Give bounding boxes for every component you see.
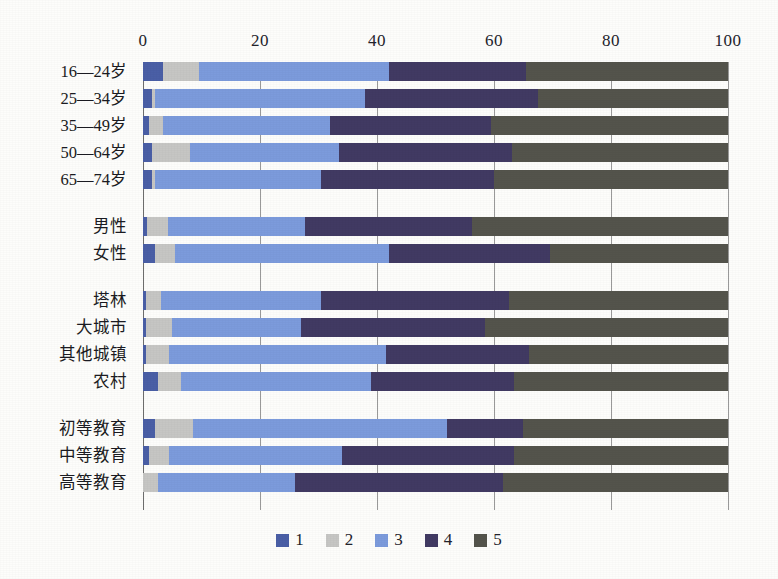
- bar-segment-series-2: [163, 62, 198, 81]
- bar-row: [143, 345, 728, 364]
- bar-segment-series-3: [158, 473, 295, 492]
- bar-segment-series-1: [143, 244, 155, 263]
- category-label: 25—34岁: [0, 89, 133, 108]
- bar-segment-series-5: [514, 372, 728, 391]
- bar-row: [143, 143, 728, 162]
- bar-row: [143, 89, 728, 108]
- category-label: 中等教育: [0, 446, 133, 465]
- legend-item-2[interactable]: 2: [326, 530, 354, 550]
- bar-segment-series-4: [447, 419, 523, 438]
- bar-segment-series-2: [146, 318, 172, 337]
- legend-label: 4: [444, 530, 453, 550]
- bar-segment-series-2: [155, 419, 193, 438]
- category-label: 其他城镇: [0, 345, 133, 364]
- bar-segment-series-5: [472, 217, 728, 236]
- x-axis: 020406080100: [0, 28, 778, 54]
- legend: 12345: [0, 530, 778, 550]
- bar-segment-series-3: [163, 116, 330, 135]
- bar-row: [143, 170, 728, 189]
- bar-segment-series-5: [512, 143, 728, 162]
- category-label: 塔林: [0, 291, 133, 310]
- bar-segment-series-4: [305, 217, 472, 236]
- bar-row: [143, 62, 728, 81]
- bar-row: [143, 116, 728, 135]
- x-axis-tick-20: 20: [240, 28, 280, 54]
- stacked-bar-chart: 020406080100 16—24岁25—34岁35—49岁50—64岁65—…: [0, 0, 778, 579]
- gridline-100: [728, 62, 729, 510]
- bar-row: [143, 419, 728, 438]
- bar-segment-series-2: [158, 372, 181, 391]
- bar-segment-series-5: [523, 419, 728, 438]
- bar-segment-series-4: [389, 62, 526, 81]
- bar-row: [143, 318, 728, 337]
- bar-row: [143, 244, 728, 263]
- bar-segment-series-5: [494, 170, 728, 189]
- bar-segment-series-1: [143, 170, 152, 189]
- bar-segment-series-1: [143, 372, 158, 391]
- category-label: 女性: [0, 244, 133, 263]
- bar-segment-series-1: [143, 419, 155, 438]
- x-axis-tick-60: 60: [474, 28, 514, 54]
- bar-segment-series-5: [550, 244, 728, 263]
- legend-label: 3: [394, 530, 403, 550]
- category-label: 农村: [0, 372, 133, 391]
- bar-segment-series-2: [155, 244, 175, 263]
- bar-row: [143, 217, 728, 236]
- bar-row: [143, 446, 728, 465]
- category-label: 高等教育: [0, 473, 133, 492]
- x-axis-tick-80: 80: [591, 28, 631, 54]
- bar-segment-series-5: [529, 345, 728, 364]
- bar-segment-series-4: [371, 372, 514, 391]
- category-label: 大城市: [0, 318, 133, 337]
- bar-segment-series-3: [169, 345, 385, 364]
- legend-item-4[interactable]: 4: [425, 530, 453, 550]
- category-label: 初等教育: [0, 419, 133, 438]
- bar-segment-series-4: [295, 473, 503, 492]
- bar-segment-series-2: [146, 345, 169, 364]
- legend-item-3[interactable]: 3: [375, 530, 403, 550]
- category-label: 35—49岁: [0, 116, 133, 135]
- x-axis-tick-40: 40: [357, 28, 397, 54]
- bar-segment-series-3: [181, 372, 371, 391]
- category-label: 50—64岁: [0, 143, 133, 162]
- bar-segment-series-5: [503, 473, 728, 492]
- legend-swatch-icon: [326, 534, 339, 547]
- bar-row: [143, 291, 728, 310]
- bar-segment-series-2: [147, 217, 167, 236]
- bar-segment-series-2: [149, 446, 169, 465]
- x-axis-tick-100: 100: [708, 28, 748, 54]
- bar-segment-series-5: [538, 89, 728, 108]
- bar-segment-series-5: [526, 62, 728, 81]
- category-label: 16—24岁: [0, 62, 133, 81]
- bar-segment-series-1: [143, 89, 152, 108]
- bar-segment-series-2: [149, 116, 164, 135]
- bar-segment-series-5: [514, 446, 728, 465]
- bar-segment-series-5: [509, 291, 728, 310]
- bar-segment-series-4: [301, 318, 485, 337]
- bar-segment-series-4: [330, 116, 491, 135]
- legend-item-5[interactable]: 5: [474, 530, 502, 550]
- bar-segment-series-1: [143, 62, 163, 81]
- bar-segment-series-2: [146, 291, 161, 310]
- legend-item-1[interactable]: 1: [276, 530, 304, 550]
- bar-segment-series-3: [169, 446, 342, 465]
- bar-segment-series-4: [321, 291, 508, 310]
- legend-label: 1: [295, 530, 304, 550]
- bar-segment-series-3: [193, 419, 447, 438]
- bar-segment-series-5: [491, 116, 728, 135]
- bar-segment-series-3: [172, 318, 301, 337]
- bar-segment-series-3: [155, 89, 366, 108]
- bar-segment-series-4: [365, 89, 538, 108]
- bar-segment-series-3: [155, 170, 322, 189]
- category-label: 男性: [0, 217, 133, 236]
- bar-segment-series-1: [143, 143, 152, 162]
- bar-segment-series-4: [342, 446, 515, 465]
- bar-segment-series-3: [161, 291, 322, 310]
- bar-row: [143, 372, 728, 391]
- bar-segment-series-3: [199, 62, 389, 81]
- bar-segment-series-5: [485, 318, 728, 337]
- bar-segment-series-3: [168, 217, 305, 236]
- legend-swatch-icon: [425, 534, 438, 547]
- legend-label: 5: [493, 530, 502, 550]
- legend-label: 2: [345, 530, 354, 550]
